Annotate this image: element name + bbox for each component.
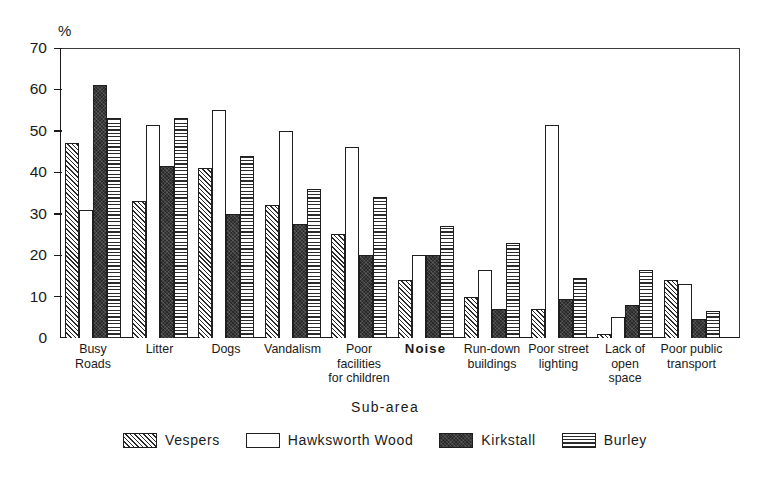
y-axis-tick-label: 10: [7, 289, 47, 305]
y-axis-tick-label: 40: [7, 164, 47, 180]
bar: [464, 297, 478, 338]
bar: [265, 205, 279, 338]
y-axis-tick-label: 20: [7, 247, 47, 263]
bar: [373, 197, 387, 338]
y-axis-tick-20: 20: [0, 247, 62, 263]
bar: [412, 255, 426, 338]
bar: [506, 243, 520, 338]
bar: [398, 280, 412, 338]
bar-group: [331, 48, 387, 338]
bar: [345, 147, 359, 338]
legend-swatch-icon: [246, 433, 280, 448]
bar: [174, 118, 188, 338]
bar-group: [531, 48, 587, 338]
bar: [226, 214, 240, 338]
y-axis-tick-60: 60: [0, 81, 62, 97]
y-axis-tick-30: 30: [0, 206, 62, 222]
bar: [545, 125, 559, 338]
bar: [706, 311, 720, 338]
bar: [198, 168, 212, 338]
bar: [160, 166, 174, 338]
bar-group: [664, 48, 720, 338]
bar: [212, 110, 226, 338]
bar: [79, 210, 93, 338]
legend-item-kirkstall[interactable]: Kirkstall: [439, 432, 535, 448]
y-axis-tick-label: 70: [7, 40, 47, 56]
bar: [625, 305, 639, 338]
bar-group: [398, 48, 454, 338]
bar: [293, 224, 307, 338]
bar: [359, 255, 373, 338]
bar: [492, 309, 506, 338]
bar: [307, 189, 321, 338]
x-axis-title: Sub-area: [0, 399, 770, 415]
bar: [107, 118, 121, 338]
bar: [426, 255, 440, 338]
bar: [559, 299, 573, 338]
y-axis-unit-label: %: [58, 22, 71, 39]
bar: [93, 85, 107, 338]
bar: [611, 317, 625, 338]
legend-label: Vespers: [165, 432, 220, 448]
x-axis-tick-label: Poor public transport: [653, 342, 731, 371]
bar-group: [464, 48, 520, 338]
legend-item-burley[interactable]: Burley: [562, 432, 647, 448]
bars-layer: [60, 48, 740, 338]
y-axis-tick-50: 50: [0, 123, 62, 139]
bar: [240, 156, 254, 338]
x-axis-tick-labels: Busy RoadsLitterDogsVandalismPoor facili…: [60, 342, 740, 400]
bar: [678, 284, 692, 338]
bar: [132, 201, 146, 338]
y-axis-tick-label: 50: [7, 123, 47, 139]
legend-item-hawksworth-wood[interactable]: Hawksworth Wood: [246, 432, 413, 448]
bar-group: [198, 48, 254, 338]
y-axis-tick-0: 0: [0, 330, 62, 346]
bar: [279, 131, 293, 338]
bar: [65, 143, 79, 338]
y-axis: 706050403020100: [0, 40, 62, 346]
legend-label: Burley: [604, 432, 647, 448]
y-axis-tick-label: 30: [7, 206, 47, 222]
bar: [692, 319, 706, 338]
chart-page: % 706050403020100 Busy RoadsLitterDogsVa…: [0, 0, 770, 482]
bar: [639, 270, 653, 338]
bar: [440, 226, 454, 338]
bar: [531, 309, 545, 338]
bar-group: [597, 48, 653, 338]
legend-item-vespers[interactable]: Vespers: [123, 432, 220, 448]
bar: [664, 280, 678, 338]
bar-group: [132, 48, 188, 338]
y-axis-tick-label: 0: [7, 330, 47, 346]
bar-group: [65, 48, 121, 338]
chart-legend: VespersHawksworth WoodKirkstallBurley: [0, 432, 770, 448]
bar: [478, 270, 492, 338]
bar: [597, 334, 611, 338]
y-axis-tick-70: 70: [0, 40, 62, 56]
bar-group: [265, 48, 321, 338]
bar: [573, 278, 587, 338]
legend-label: Kirkstall: [481, 432, 535, 448]
y-axis-tick-label: 60: [7, 81, 47, 97]
y-axis-tick-10: 10: [0, 289, 62, 305]
bar: [146, 125, 160, 338]
legend-swatch-icon: [562, 433, 596, 448]
bar: [331, 234, 345, 338]
legend-swatch-icon: [123, 433, 157, 448]
legend-label: Hawksworth Wood: [288, 432, 413, 448]
y-axis-tick-40: 40: [0, 164, 62, 180]
legend-swatch-icon: [439, 433, 473, 448]
